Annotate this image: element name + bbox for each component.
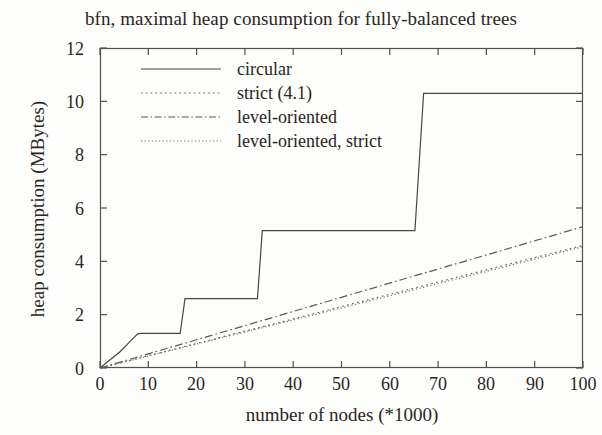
legend-label: level-oriented	[225, 107, 337, 128]
series-line	[100, 227, 583, 368]
y-tick-label: 10	[38, 93, 84, 111]
chart-title: bfn, maximal heap consumption for fully-…	[0, 8, 602, 30]
legend-item-circular: circular	[137, 57, 397, 81]
x-axis-label: number of nodes (*1000)	[100, 404, 584, 426]
y-tick-label: 2	[38, 306, 84, 324]
y-tick-label: 12	[38, 40, 84, 58]
legend-swatch-fine-dotted-icon	[137, 134, 225, 148]
legend-item-level-oriented: level-oriented	[137, 105, 397, 129]
legend-swatch-dotted-icon	[137, 86, 225, 100]
legend: circular strict (4.1) level-oriented lev…	[137, 57, 397, 153]
x-tick-label: 100	[553, 375, 602, 393]
legend-label: strict (4.1)	[225, 83, 312, 104]
legend-item-strict: strict (4.1)	[137, 81, 397, 105]
legend-swatch-dashdot-icon	[137, 110, 225, 124]
chart-figure: bfn, maximal heap consumption for fully-…	[0, 0, 602, 435]
series-line	[100, 247, 583, 368]
y-tick-label: 8	[38, 146, 84, 164]
legend-item-level-oriented-strict: level-oriented, strict	[137, 129, 397, 153]
legend-label: level-oriented, strict	[225, 131, 382, 152]
y-tick-label: 6	[38, 200, 84, 218]
y-tick-label: 4	[38, 253, 84, 271]
legend-label: circular	[225, 59, 292, 80]
legend-swatch-solid-icon	[137, 62, 225, 76]
